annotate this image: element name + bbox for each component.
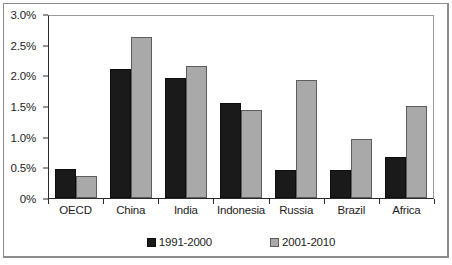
bar — [275, 170, 296, 199]
bar-group — [323, 15, 378, 198]
bar-group — [268, 15, 323, 198]
legend-swatch-icon — [147, 238, 156, 247]
x-axis-category-label: Brazil — [324, 204, 379, 224]
bar — [351, 139, 372, 198]
y-axis-tick-label: 2.0% — [11, 70, 36, 82]
bar — [131, 37, 152, 198]
legend-label: 1991-2000 — [159, 236, 212, 248]
bar-group — [159, 15, 214, 198]
bar — [110, 69, 131, 198]
plot-area-wrapper — [48, 15, 434, 199]
bar — [186, 66, 207, 198]
y-axis-tick-label: 1.0% — [11, 132, 36, 144]
x-axis-labels: OECDChinaIndiaIndonesiaRussiaBrazilAfric… — [48, 204, 434, 224]
bar — [296, 80, 317, 198]
y-axis-tick-label: 2.5% — [11, 40, 36, 52]
y-axis-tick-label: 0.5% — [11, 162, 36, 174]
bar — [385, 157, 406, 198]
bar-groups — [49, 15, 433, 198]
chart-figure: 0%0.5%1.0%1.5%2.0%2.5%3.0% OECDChinaIndi… — [0, 0, 452, 265]
y-axis-tick-label: 1.5% — [11, 101, 36, 113]
bar-group — [378, 15, 433, 198]
x-axis-category-label: OECD — [48, 204, 103, 224]
x-axis-category-label: Africa — [379, 204, 434, 224]
bar — [165, 78, 186, 198]
bar — [76, 176, 97, 198]
bar-group — [49, 15, 104, 198]
y-axis-tick-label: 0% — [20, 193, 36, 205]
bar — [330, 170, 351, 198]
bar — [55, 169, 76, 198]
x-axis-category-label: China — [103, 204, 158, 224]
chart-legend: 1991-20002001-2010 — [48, 232, 434, 252]
legend-swatch-icon — [270, 238, 279, 247]
legend-item[interactable]: 2001-2010 — [270, 236, 335, 248]
legend-item[interactable]: 1991-2000 — [147, 236, 212, 248]
y-axis-tick-label: 3.0% — [11, 9, 36, 21]
x-axis-category-label: Russia — [269, 204, 324, 224]
legend-label: 2001-2010 — [282, 236, 335, 248]
y-axis: 0%0.5%1.0%1.5%2.0%2.5%3.0% — [0, 15, 44, 199]
bar — [220, 103, 241, 198]
x-axis-tick-mark — [434, 199, 435, 204]
bar-group — [214, 15, 269, 198]
x-axis-category-label: India — [158, 204, 213, 224]
bar-group — [104, 15, 159, 198]
bar — [241, 110, 262, 198]
bar — [406, 106, 427, 198]
x-axis-category-label: Indonesia — [213, 204, 268, 224]
